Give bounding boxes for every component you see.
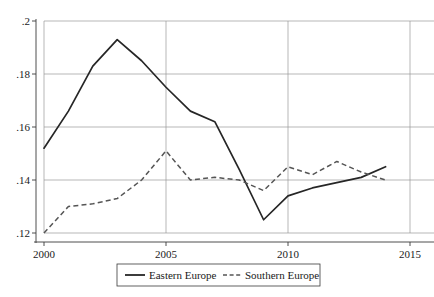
x-tick-label-2: 2010 [277,248,300,260]
y-tick-label-0: .12 [16,227,30,239]
x-tickmarks-group [44,242,410,246]
series-line-southern-europe [44,151,386,233]
y-tickmarks-group [32,21,36,233]
y-tick-label-3: .18 [16,68,30,80]
x-tick-label-1: 2005 [155,248,178,260]
y-tick-label-4: .2 [22,15,30,27]
series-line-eastern-europe [44,40,386,220]
series-group [44,40,386,233]
y-tick-label-1: .14 [16,174,30,186]
x-tick-label-3: 2015 [399,248,422,260]
legend-label-eastern-europe: Eastern Europe [149,269,217,281]
x-tick-label-0: 2000 [33,248,56,260]
y-tick-label-2: .16 [16,121,30,133]
gridlines-group [44,21,434,233]
x-tick-labels-group: 2000200520102015 [33,248,422,260]
legend-label-southern-europe: Southern Europe [245,269,319,281]
y-tick-labels-group: .12.14.16.18.2 [16,15,30,239]
chart-canvas: .12.14.16.18.2 2000200520102015 Eastern … [0,0,434,297]
chart-legend: Eastern EuropeSouthern Europe [117,264,320,286]
line-chart: .12.14.16.18.2 2000200520102015 Eastern … [0,0,434,297]
